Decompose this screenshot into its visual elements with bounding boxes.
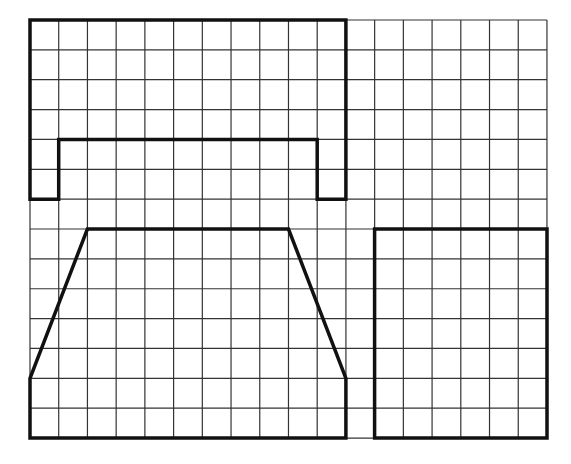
grid-diagram — [0, 0, 571, 464]
trapezoid-shape — [30, 229, 346, 438]
